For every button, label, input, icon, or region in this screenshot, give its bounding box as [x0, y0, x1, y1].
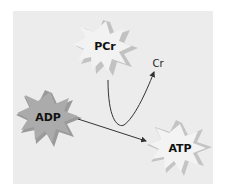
adp-to-atp-arrow — [78, 119, 146, 141]
adp-label: ADP — [35, 111, 61, 124]
pcr-label: PCr — [94, 40, 116, 53]
pcr-to-cr-arrow — [108, 72, 154, 126]
atp-label: ATP — [168, 142, 191, 155]
diagram-canvas — [0, 0, 225, 196]
cr-label: Cr — [152, 58, 163, 69]
